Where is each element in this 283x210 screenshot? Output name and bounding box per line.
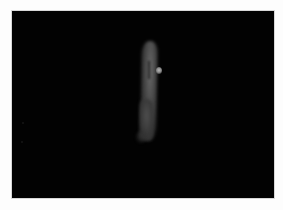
cell-groove	[148, 61, 150, 79]
noise-dot	[22, 122, 24, 124]
noise-dot	[21, 141, 23, 143]
page	[0, 0, 283, 210]
fluorescent-punctum	[156, 67, 162, 74]
microscopy-image-frame	[12, 11, 274, 198]
cell-tail	[136, 131, 146, 143]
